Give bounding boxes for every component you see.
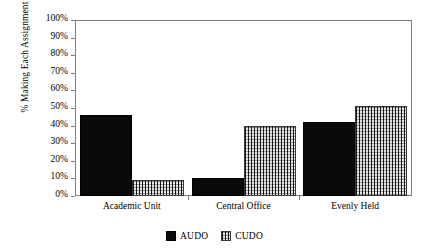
x-axis-separator	[188, 196, 189, 200]
y-tick-label: 40%	[22, 119, 68, 129]
bar-audo-0	[80, 115, 132, 196]
legend-item-cudo: CUDO	[221, 231, 263, 241]
bar-chart-figure: % Making Each Assignment 0%10%20%30%40%5…	[0, 0, 429, 252]
bar-group	[303, 20, 407, 196]
x-axis-label-2: Evenly Held	[299, 201, 411, 211]
x-axis-label-0: Academic Unit	[76, 201, 188, 211]
x-axis-separator	[299, 196, 300, 200]
y-tick-label: 0%	[22, 189, 68, 199]
bar-cudo-1	[244, 126, 296, 196]
x-axis-label-1: Central Office	[188, 201, 300, 211]
bars-layer	[76, 20, 411, 196]
legend-item-audo: AUDO	[166, 231, 208, 241]
bar-group	[192, 20, 296, 196]
legend-swatch-audo-icon	[166, 231, 176, 241]
y-tick-label: 70%	[22, 66, 68, 76]
y-tick-label: 50%	[22, 101, 68, 111]
y-tick-label: 90%	[22, 31, 68, 41]
y-tick-label: 20%	[22, 154, 68, 164]
y-tick-label: 80%	[22, 48, 68, 58]
y-tick-label: 100%	[22, 13, 68, 23]
y-tick-label: 10%	[22, 171, 68, 181]
y-tick-label: 60%	[22, 83, 68, 93]
bar-cudo-0	[132, 180, 184, 196]
chart-legend: AUDOCUDO	[0, 231, 429, 241]
legend-label: CUDO	[235, 231, 263, 241]
bar-cudo-2	[355, 106, 407, 196]
bar-group	[80, 20, 184, 196]
legend-swatch-cudo-icon	[221, 231, 231, 241]
bar-audo-1	[192, 178, 244, 196]
y-tick-label: 30%	[22, 136, 68, 146]
y-tick-mark	[71, 196, 75, 197]
legend-label: AUDO	[180, 231, 208, 241]
bar-audo-2	[303, 122, 355, 196]
